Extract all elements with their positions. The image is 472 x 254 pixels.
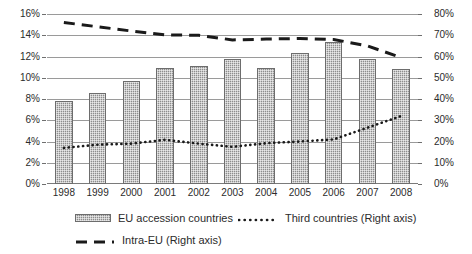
right-axis-tick-label: 20% bbox=[424, 137, 472, 147]
right-axis-tick-mark bbox=[418, 99, 422, 100]
left-axis-tick-mark bbox=[42, 120, 46, 121]
x-axis-tick-label: 2005 bbox=[283, 186, 317, 200]
legend-label-eu-accession-countries: EU accession countries bbox=[118, 212, 233, 224]
legend-dashed-line-icon bbox=[75, 236, 115, 244]
legend-bar-swatch-icon bbox=[75, 214, 111, 222]
left-axis-tick-mark bbox=[42, 35, 46, 36]
left-axis-tick-label: 14% bbox=[4, 30, 40, 40]
right-axis-tick-label: 60% bbox=[424, 52, 472, 62]
legend-item-intra-eu: Intra-EU (Right axis) bbox=[75, 230, 222, 250]
x-axis-tick-label: 2004 bbox=[249, 186, 283, 200]
right-axis-tick-mark bbox=[418, 120, 422, 121]
right-axis-tick-label: 40% bbox=[424, 94, 472, 104]
left-axis-tick-label: 10% bbox=[4, 73, 40, 83]
x-axis-tick-label: 2003 bbox=[216, 186, 250, 200]
right-axis-tick-mark bbox=[418, 57, 422, 58]
left-axis-tick-mark bbox=[42, 78, 46, 79]
left-axis-tick-labels: 0%2%4%6%8%10%12%14%16% bbox=[0, 14, 40, 184]
x-axis-tick-label: 2007 bbox=[351, 186, 385, 200]
x-axis-tick-label: 1998 bbox=[47, 186, 81, 200]
right-axis-tick-mark bbox=[418, 142, 422, 143]
right-axis-tick-labels: 0%10%20%30%40%50%60%70%80% bbox=[424, 14, 468, 184]
left-axis-tick-mark bbox=[42, 184, 46, 185]
legend-row-1: EU accession countries Third countries (… bbox=[0, 208, 472, 228]
left-axis-tick-mark bbox=[42, 99, 46, 100]
legend-row-2: Intra-EU (Right axis) bbox=[0, 230, 472, 250]
left-axis-tick-mark bbox=[42, 163, 46, 164]
left-axis-tick-mark bbox=[42, 142, 46, 143]
left-axis-tick-label: 8% bbox=[4, 94, 40, 104]
legend-item-eu-accession-countries: EU accession countries bbox=[75, 208, 233, 228]
left-axis-tick-label: 0% bbox=[4, 179, 40, 189]
line-series-layer bbox=[47, 14, 418, 184]
right-axis-tick-mark bbox=[418, 78, 422, 79]
right-axis-tick-label: 80% bbox=[424, 9, 472, 19]
x-axis-tick-labels: 1998199920002001200220032004200520062007… bbox=[47, 186, 418, 202]
legend-dotted-line-icon bbox=[238, 214, 278, 222]
x-axis-tick-label: 2000 bbox=[114, 186, 148, 200]
legend-label-third-countries: Third countries (Right axis) bbox=[285, 212, 416, 224]
left-axis-tick-label: 12% bbox=[4, 52, 40, 62]
x-axis-tick-label: 2002 bbox=[182, 186, 216, 200]
right-axis-tick-label: 30% bbox=[424, 115, 472, 125]
left-axis-tick-mark bbox=[42, 14, 46, 15]
left-axis-tick-label: 16% bbox=[4, 9, 40, 19]
legend-label-intra-eu: Intra-EU (Right axis) bbox=[122, 234, 222, 246]
line-intra-eu bbox=[64, 23, 401, 58]
left-axis-tick-label: 6% bbox=[4, 115, 40, 125]
chart-figure: 0%2%4%6%8%10%12%14%16% 0%10%20%30%40%50%… bbox=[0, 0, 472, 254]
right-axis-tick-label: 50% bbox=[424, 73, 472, 83]
x-axis-tick-label: 2001 bbox=[148, 186, 182, 200]
left-axis-tick-label: 2% bbox=[4, 158, 40, 168]
right-axis-tick-label: 10% bbox=[424, 158, 472, 168]
plot-area bbox=[47, 14, 418, 184]
right-axis-tick-mark bbox=[418, 14, 422, 15]
left-axis-tick-label: 4% bbox=[4, 137, 40, 147]
x-axis-tick-label: 1999 bbox=[81, 186, 115, 200]
line-third-countries bbox=[64, 116, 401, 148]
left-axis-tick-mark bbox=[42, 57, 46, 58]
x-axis-tick-label: 2008 bbox=[384, 186, 418, 200]
right-axis-tick-label: 70% bbox=[424, 30, 472, 40]
right-axis-tick-mark bbox=[418, 35, 422, 36]
right-axis-tick-mark bbox=[418, 184, 422, 185]
chart-legend: EU accession countries Third countries (… bbox=[0, 208, 472, 254]
x-axis-tick-label: 2006 bbox=[317, 186, 351, 200]
right-axis-tick-label: 0% bbox=[424, 179, 472, 189]
right-axis-tick-mark bbox=[418, 163, 422, 164]
legend-item-third-countries: Third countries (Right axis) bbox=[238, 208, 416, 228]
